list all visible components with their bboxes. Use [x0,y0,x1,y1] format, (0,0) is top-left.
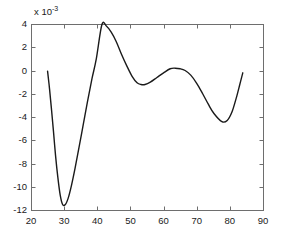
x-tick-label: 70 [191,216,202,226]
y-tick-label: -2 [0,89,27,99]
y-tick-label: -8 [0,159,27,169]
y-tick-label: 2 [0,43,27,53]
figure-canvas: x 10-3 420-2-4-6-8-10-12 203040506070809… [0,0,283,243]
x-tick-label: 20 [26,216,37,226]
y-tick-label: -12 [0,205,27,215]
x-tick-label: 40 [92,216,103,226]
data-line [48,22,243,205]
x-tick-label: 60 [158,216,169,226]
y-tick-label: 4 [0,19,27,29]
x-tick-label: 30 [59,216,70,226]
y-tick-label: -10 [0,182,27,192]
x-tick-label: 90 [258,216,269,226]
x-tick-label: 50 [125,216,136,226]
data-series-group [48,22,243,205]
y-tick-label: -4 [0,112,27,122]
plot-area [0,0,283,243]
x-tick-label: 80 [225,216,236,226]
y-tick-label: 0 [0,66,27,76]
y-tick-label: -6 [0,136,27,146]
